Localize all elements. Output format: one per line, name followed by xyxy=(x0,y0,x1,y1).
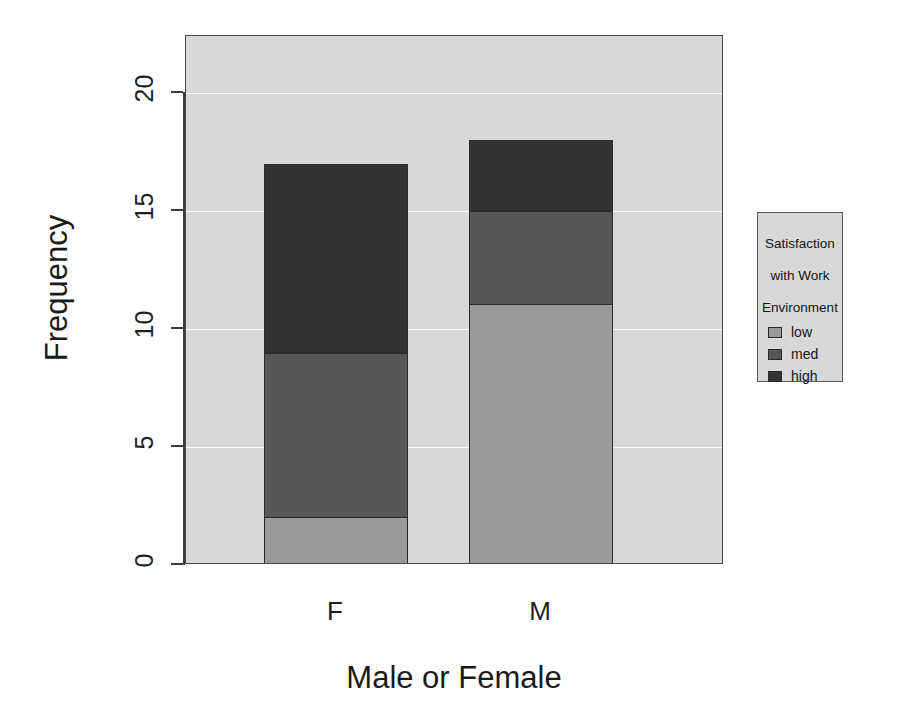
gridline-20 xyxy=(186,93,722,95)
y-tick-15 xyxy=(171,209,183,211)
bar-f[interactable] xyxy=(264,164,408,563)
y-axis-line xyxy=(183,92,185,565)
plot-area xyxy=(185,35,723,564)
y-tick-label-text: 10 xyxy=(131,310,160,338)
y-tick-label-20: 20 xyxy=(128,74,162,103)
chart-figure: 05101520 Frequency FM Male or Female Sat… xyxy=(0,0,922,716)
legend-swatch-high xyxy=(768,371,782,382)
x-tick-label-m: M xyxy=(468,596,612,627)
y-tick-0 xyxy=(171,563,183,565)
y-tick-label-text: 20 xyxy=(131,74,160,102)
y-tick-5 xyxy=(171,445,183,447)
legend-title-line-1: Satisfaction xyxy=(765,236,835,251)
bar-segment-f-high[interactable] xyxy=(264,164,408,353)
legend-title-line-3: Environment xyxy=(762,300,838,315)
y-tick-label-text: 0 xyxy=(131,554,160,568)
bar-segment-m-low[interactable] xyxy=(469,304,613,564)
bar-m[interactable] xyxy=(469,140,613,563)
legend-item-med[interactable]: med xyxy=(768,344,838,364)
bar-segment-f-low[interactable] xyxy=(264,517,408,564)
legend-items: lowmedhigh xyxy=(762,322,838,386)
y-tick-label-text: 15 xyxy=(131,192,160,220)
x-tick-label-f: F xyxy=(263,596,407,627)
bar-segment-m-med[interactable] xyxy=(469,211,613,305)
y-tick-label-0: 0 xyxy=(128,546,162,575)
legend-label-med: med xyxy=(791,347,818,361)
y-tick-label-15: 15 xyxy=(128,192,162,221)
legend-box: Satisfaction with Work Environment lowme… xyxy=(757,212,843,382)
legend-label-low: low xyxy=(791,325,812,339)
y-tick-label-10: 10 xyxy=(128,310,162,339)
legend-swatch-med xyxy=(768,349,782,360)
legend-item-high[interactable]: high xyxy=(768,366,838,386)
y-tick-label-5: 5 xyxy=(128,428,162,457)
y-tick-label-text: 5 xyxy=(131,435,160,449)
bar-segment-m-high[interactable] xyxy=(469,140,613,211)
y-axis-title: Frequency xyxy=(39,188,75,388)
y-tick-10 xyxy=(171,327,183,329)
legend-label-high: high xyxy=(791,369,817,383)
legend-title-line-2: with Work xyxy=(770,268,829,283)
x-axis-title: Male or Female xyxy=(185,660,723,696)
y-tick-20 xyxy=(171,91,183,93)
bar-segment-f-med[interactable] xyxy=(264,353,408,518)
legend-swatch-low xyxy=(768,327,782,338)
legend-title: Satisfaction with Work Environment xyxy=(762,220,838,316)
legend-item-low[interactable]: low xyxy=(768,322,838,342)
